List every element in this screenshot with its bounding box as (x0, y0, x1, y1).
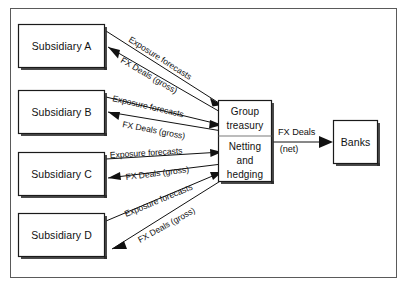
netting-label-line3: hedging (227, 169, 263, 180)
netting-label-line1: Netting (229, 141, 261, 152)
group-treasury-label-line2: treasury (227, 120, 264, 131)
node-subsidiary-a[interactable]: Subsidiary A (19, 25, 108, 71)
subsidiary-c-label: Subsidiary C (31, 168, 92, 180)
node-subsidiary-b[interactable]: Subsidiary B (19, 91, 108, 137)
edge-label-fx-deals-net-line2: (net) (280, 144, 299, 154)
node-group-treasury[interactable]: Group treasury Netting and hedging (219, 101, 275, 185)
group-treasury-label-line1: Group (231, 106, 260, 117)
node-subsidiary-d[interactable]: Subsidiary D (19, 214, 108, 260)
fx-netting-diagram: Exposure forecasts FX Deals (gross) Expo… (0, 0, 407, 287)
banks-label: Banks (341, 136, 371, 148)
node-banks[interactable]: Banks (334, 121, 381, 167)
netting-label-line2: and (237, 155, 254, 166)
subsidiary-d-label: Subsidiary D (31, 229, 92, 241)
edge-label-fx-deals-net-line1: FX Deals (278, 127, 316, 137)
subsidiary-b-label: Subsidiary B (31, 106, 91, 118)
node-subsidiary-c[interactable]: Subsidiary C (19, 153, 108, 199)
diagram-canvas: Exposure forecasts FX Deals (gross) Expo… (0, 0, 407, 287)
subsidiary-a-label: Subsidiary A (32, 40, 92, 52)
